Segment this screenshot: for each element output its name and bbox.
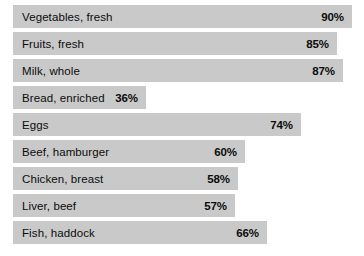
bar-label: Fish, haddock xyxy=(22,227,95,239)
chart-row: Bread, enriched 36% xyxy=(13,86,364,109)
chart-row: Eggs 74% xyxy=(13,113,364,136)
bar-value: 90% xyxy=(321,11,344,23)
chart-row: Fruits, fresh 85% xyxy=(13,32,364,55)
bar-vegetables-fresh: Vegetables, fresh 90% xyxy=(13,5,352,28)
bar-value: 58% xyxy=(207,173,230,185)
bar-chicken-breast: Chicken, breast 58% xyxy=(13,167,238,190)
bar-label: Chicken, breast xyxy=(22,173,103,185)
horizontal-bar-chart: Vegetables, fresh 90% Fruits, fresh 85% … xyxy=(0,0,364,256)
bar-value: 85% xyxy=(306,38,329,50)
chart-row: Fish, haddock 66% xyxy=(13,221,364,244)
bar-eggs: Eggs 74% xyxy=(13,113,301,136)
bar-label: Vegetables, fresh xyxy=(22,11,113,23)
bar-label: Fruits, fresh xyxy=(22,38,84,50)
bar-value: 87% xyxy=(312,65,335,77)
bar-bread-enriched: Bread, enriched 36% xyxy=(13,86,146,109)
bar-beef-hamburger: Beef, hamburger 60% xyxy=(13,140,245,163)
bar-label: Bread, enriched xyxy=(22,92,105,104)
bar-value: 74% xyxy=(270,119,293,131)
bar-label: Eggs xyxy=(22,119,49,131)
bar-milk-whole: Milk, whole 87% xyxy=(13,59,343,82)
chart-row: Liver, beef 57% xyxy=(13,194,364,217)
chart-row: Vegetables, fresh 90% xyxy=(13,5,364,28)
bar-value: 66% xyxy=(236,227,259,239)
chart-row: Milk, whole 87% xyxy=(13,59,364,82)
bar-label: Beef, hamburger xyxy=(22,146,109,158)
bar-label: Milk, whole xyxy=(22,65,80,77)
bar-value: 57% xyxy=(204,200,227,212)
bar-fruits-fresh: Fruits, fresh 85% xyxy=(13,32,337,55)
bar-label: Liver, beef xyxy=(22,200,76,212)
chart-row: Chicken, breast 58% xyxy=(13,167,364,190)
bar-liver-beef: Liver, beef 57% xyxy=(13,194,235,217)
bar-value: 60% xyxy=(214,146,237,158)
chart-row: Beef, hamburger 60% xyxy=(13,140,364,163)
bar-fish-haddock: Fish, haddock 66% xyxy=(13,221,267,244)
bar-value: 36% xyxy=(115,92,138,104)
